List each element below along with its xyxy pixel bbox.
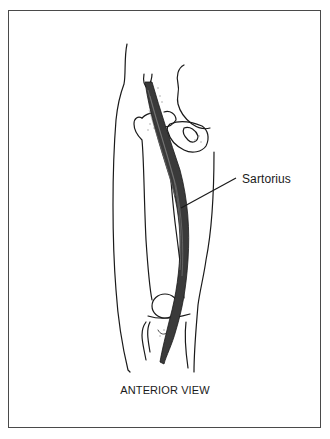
leader-line bbox=[181, 178, 236, 208]
label-sartorius: Sartorius bbox=[242, 172, 291, 186]
tibia-lateral bbox=[142, 322, 146, 360]
femur-neck-greater-trochanter bbox=[134, 117, 152, 300]
thigh-outline-right bbox=[194, 152, 214, 372]
pelvis-ilium bbox=[177, 65, 210, 129]
knee-joint bbox=[148, 314, 190, 318]
anatomy-illustration bbox=[0, 0, 330, 439]
obturator-foramen bbox=[183, 127, 198, 142]
tibia-lateral-inner bbox=[148, 322, 150, 352]
tibia-medial bbox=[185, 322, 188, 368]
pelvis-lower bbox=[167, 122, 208, 152]
sartorius-muscle bbox=[145, 82, 189, 364]
thigh-outline-left bbox=[113, 44, 130, 372]
figure-caption: ANTERIOR VIEW bbox=[0, 384, 330, 396]
